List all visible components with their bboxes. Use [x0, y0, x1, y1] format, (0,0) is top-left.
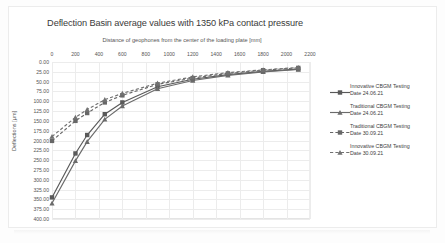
series-3	[49, 65, 300, 139]
legend-item[interactable]: Traditional CBGM Testing Date 30.09.21	[330, 123, 438, 137]
y-tick-label: 50.00	[22, 79, 49, 85]
legend-item[interactable]: Traditional CBGM Testing Date 24.06.21	[330, 103, 438, 117]
y-tick-label: 250.00	[22, 157, 49, 163]
x-tick-label: 0	[51, 51, 54, 57]
legend-label: Traditional CBGM Testing Date 30.09.21	[350, 123, 410, 137]
y-tick-label: 275.00	[22, 167, 49, 173]
series-0	[50, 67, 301, 200]
x-tick-label: 1000	[164, 51, 175, 57]
x-tick-label: 1600	[234, 51, 245, 57]
x-axis-title: Distance of geophones from the center of…	[42, 37, 322, 43]
y-tick-label: 100.00	[22, 98, 49, 104]
y-tick-label: 350.00	[22, 196, 49, 202]
sheet-shadow	[14, 230, 430, 234]
legend-label: Innovative CBGM Testing Date 24.06.21	[350, 83, 410, 97]
x-tick-label: 2200	[304, 51, 315, 57]
y-tick-label: 125.00	[22, 108, 49, 114]
plot-area: 0200400600800100012001400160018002000220…	[52, 62, 310, 219]
y-tick-label: 25.00	[22, 69, 49, 75]
chart-legend: Innovative CBGM Testing Date 24.06.21Tra…	[330, 83, 438, 163]
series-2	[50, 66, 301, 143]
legend-marker-icon	[330, 123, 350, 132]
y-tick-label: 225.00	[22, 147, 49, 153]
y-tick-label: 400.00	[22, 216, 49, 222]
x-tick-label: 1200	[187, 51, 198, 57]
legend-item[interactable]: Innovative CBGM Testing Date 24.06.21	[330, 83, 438, 97]
gridline-vertical	[310, 62, 311, 219]
y-tick-label: 200.00	[22, 138, 49, 144]
x-tick-label: 800	[142, 51, 151, 57]
x-tick-label: 1800	[257, 51, 268, 57]
y-tick-label: 375.00	[22, 206, 49, 212]
y-tick-label: 325.00	[22, 187, 49, 193]
chart-screenshot: Deflection Basin average values with 135…	[0, 0, 445, 243]
x-tick-label: 400	[95, 51, 104, 57]
y-tick-label: 300.00	[22, 177, 49, 183]
y-tick-label: 150.00	[22, 118, 49, 124]
gridline-horizontal	[52, 219, 310, 220]
legend-label: Innovative CBGM Testing Date 30.09.21	[350, 143, 410, 157]
legend-marker-icon	[330, 83, 350, 92]
y-tick-label: 0.00	[22, 59, 49, 65]
legend-marker-icon	[330, 143, 350, 152]
x-tick-label: 1400	[211, 51, 222, 57]
x-tick-label: 600	[118, 51, 127, 57]
legend-label: Traditional CBGM Testing Date 24.06.21	[350, 103, 410, 117]
y-tick-label: 75.00	[22, 88, 49, 94]
chart-title: Deflection Basin average values with 135…	[30, 18, 320, 28]
legend-item[interactable]: Innovative CBGM Testing Date 30.09.21	[330, 143, 438, 157]
series-lines	[52, 62, 310, 219]
y-tick-label: 175.00	[22, 128, 49, 134]
y-axis-title: Deflections [µm]	[11, 101, 17, 161]
legend-marker-icon	[330, 103, 350, 112]
x-tick-label: 200	[71, 51, 80, 57]
x-tick-label: 2000	[281, 51, 292, 57]
